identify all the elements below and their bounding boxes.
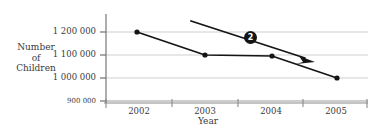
annotation-arrow-head (296, 56, 315, 64)
y-tick-label-1200000: 1 200 000 (44, 27, 96, 36)
y-axis-title-line-3: Children (8, 63, 64, 74)
x-tick-label-2003: 2003 (185, 107, 225, 116)
y-tick-label-1000000: 1 000 000 (44, 73, 96, 82)
y-axis-title-line-1: Number (8, 42, 64, 53)
y-axis-title: Number of Children (8, 42, 64, 74)
chart-figure: 1 200 000 1 100 000 1 000 000 900 000 20… (0, 0, 376, 135)
x-axis-title: Year (188, 116, 228, 127)
data-point-2003 (202, 52, 207, 57)
data-point-2005 (334, 75, 339, 80)
y-axis-title-line-2: of (8, 53, 64, 64)
x-tick-label-2005: 2005 (316, 107, 356, 116)
data-point-2004 (269, 53, 274, 58)
x-tick-label-2002: 2002 (119, 107, 159, 116)
y-tick-label-900000: 900 000 (44, 97, 96, 106)
data-point-2002 (134, 29, 139, 34)
annotation-badge-2: 2 (244, 31, 257, 44)
y-axis-ticks (100, 32, 106, 101)
gridlines (106, 32, 368, 101)
x-tick-label-2004: 2004 (251, 107, 291, 116)
